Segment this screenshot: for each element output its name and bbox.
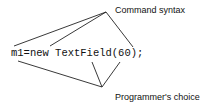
programmers-choice-label: Programmer's choice [115, 92, 200, 102]
command-syntax-label: Command syntax [115, 5, 185, 15]
code-statement: m1=new TextField(60); [11, 47, 143, 59]
diagram: Command syntax m1=new TextField(60); Pro… [0, 0, 211, 106]
